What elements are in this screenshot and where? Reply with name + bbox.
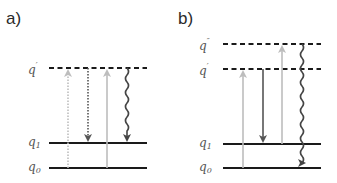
level-label-q-double-prime: q″ [199,36,210,53]
level-label-q0: q0 [199,160,212,175]
level-label-q1: q1 [28,135,41,150]
level-label-q-prime: q′ [199,61,209,78]
level-label-q1: q1 [199,136,212,151]
wavy-down-arrow [126,68,129,138]
level-label-q0: q0 [28,160,41,175]
energy-level-diagram: a) q′ q1 q0 b) q″ q′ q1 q0 [0,0,337,183]
panel-a-label: a) [6,9,21,28]
panel-b-label: b) [178,9,193,28]
panel-b: b) q″ q′ q1 q0 [178,9,321,175]
panel-a: a) q′ q1 q0 [6,9,147,175]
level-label-q-prime: q′ [28,60,38,77]
wavy-down-arrow [301,44,304,163]
